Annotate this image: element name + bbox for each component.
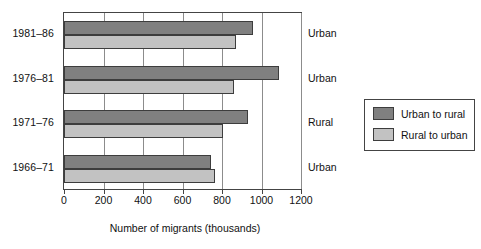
legend-swatch-icon <box>373 128 394 141</box>
x-axis-ticks: 020040060080010001200 <box>63 190 302 206</box>
legend-item: Urban to rural <box>373 107 465 120</box>
y-axis-category-labels: 1981–86 1976–81 1971–76 1966–71 <box>0 12 58 190</box>
bar <box>64 66 279 80</box>
x-tick-label: 1000 <box>250 194 273 206</box>
bar <box>64 110 248 124</box>
plot-area <box>63 12 302 190</box>
bar <box>64 169 215 183</box>
side-annotation: Urban <box>308 27 337 39</box>
bar-group <box>64 21 301 49</box>
bar <box>64 21 253 35</box>
legend-swatch-icon <box>373 107 394 120</box>
y-axis-tick-label: 1976–81 <box>12 72 54 84</box>
legend: Urban to rural Rural to urban <box>364 99 475 151</box>
legend-item: Rural to urban <box>373 128 468 141</box>
bar-group <box>64 66 301 94</box>
bar <box>64 155 211 169</box>
x-tick-label: 400 <box>134 194 152 206</box>
legend-label: Rural to urban <box>401 129 468 141</box>
legend-label: Urban to rural <box>401 108 465 120</box>
side-annotation: Urban <box>308 161 337 173</box>
bar-group <box>64 110 301 138</box>
group-side-annotations: Urban Urban Rural Urban <box>308 12 368 190</box>
gridline <box>301 13 302 189</box>
y-axis-tick-label: 1966–71 <box>12 161 54 173</box>
x-axis-title: Number of migrants (thousands) <box>0 222 370 234</box>
bar-group <box>64 155 301 183</box>
x-tick-label: 800 <box>213 194 231 206</box>
x-tick-label: 1200 <box>289 194 312 206</box>
side-annotation: Urban <box>308 72 337 84</box>
bar <box>64 35 236 49</box>
x-tick-label: 600 <box>174 194 192 206</box>
y-axis-tick-label: 1981–86 <box>12 27 54 39</box>
side-annotation: Rural <box>308 116 333 128</box>
chart-root: 1981–86 1976–81 1971–76 1966–71 Urban Ur… <box>0 0 481 249</box>
bar <box>64 80 234 94</box>
x-tick-label: 200 <box>95 194 113 206</box>
bar <box>64 124 223 138</box>
y-axis-tick-label: 1971–76 <box>12 116 54 128</box>
x-tick-label: 0 <box>61 194 67 206</box>
